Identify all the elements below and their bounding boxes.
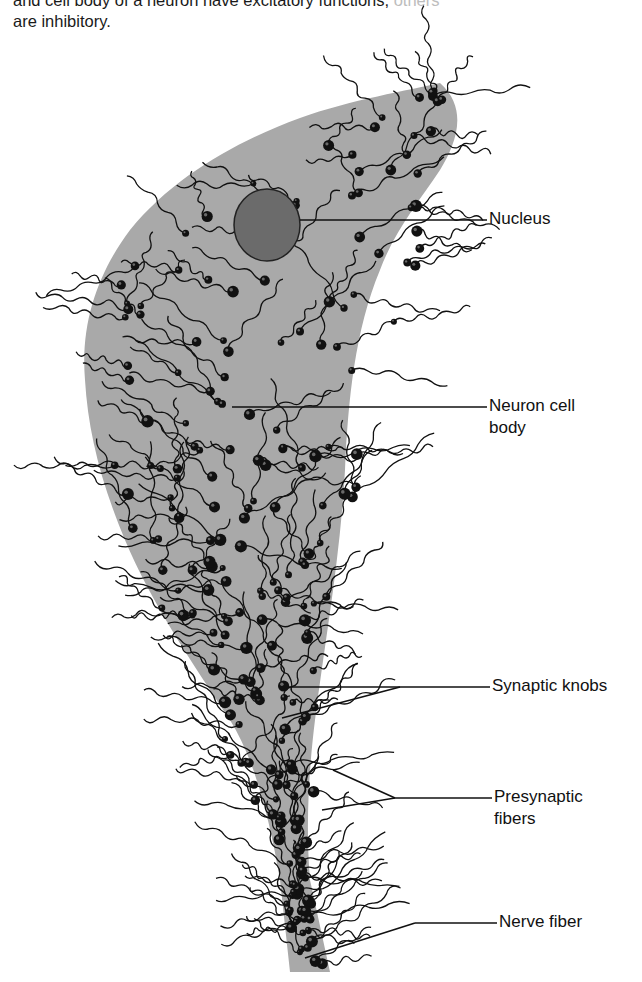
label-nerve-fiber: Nerve fiber [499,912,582,932]
label-presynaptic-2: fibers [494,809,536,829]
neuron-diagram [0,0,642,982]
nucleus [234,189,300,261]
label-neuron-cell-body-2: body [489,418,526,438]
label-presynaptic-1: Presynaptic [494,787,583,807]
label-nucleus: Nucleus [489,209,550,229]
label-neuron-cell-body-1: Neuron cell [489,396,575,416]
label-synaptic-knobs: Synaptic knobs [492,676,607,696]
